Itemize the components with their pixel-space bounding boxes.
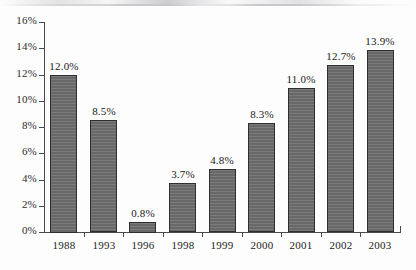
scan-artifact-streak: [0, 4, 416, 6]
bar-chart: 0%2%4%6%8%10%12%14%16% 19881993199619981…: [0, 0, 416, 270]
y-axis-tick-label: 8%: [0, 119, 37, 131]
bar-value-label: 8.5%: [84, 105, 124, 117]
y-axis-tick-label: 2%: [0, 198, 37, 210]
y-axis-tick: [39, 180, 45, 181]
scan-artifact-band: [0, 0, 416, 6]
x-axis-end-tick: [400, 226, 401, 233]
y-axis-tick: [39, 153, 45, 154]
y-axis-tick-label: 14%: [0, 40, 37, 52]
bar-value-label: 13.9%: [360, 35, 400, 47]
y-axis-tick: [39, 232, 45, 233]
y-axis-tick-label: 12%: [0, 67, 37, 79]
x-axis-tick-label: 2000: [242, 239, 282, 251]
bar: [367, 50, 394, 232]
bar: [129, 222, 156, 233]
x-axis-tick: [202, 232, 203, 237]
x-axis-tick: [123, 232, 124, 237]
y-axis-tick: [39, 206, 45, 207]
y-axis-tick-label: 16%: [0, 14, 37, 26]
bar: [248, 123, 275, 232]
y-axis-tick: [39, 127, 45, 128]
bar-value-label: 12.7%: [321, 50, 361, 62]
bar-value-label: 8.3%: [242, 108, 282, 120]
x-axis-tick: [242, 232, 243, 237]
y-axis-tick-label: 10%: [0, 93, 37, 105]
bar-value-label: 4.8%: [202, 154, 242, 166]
y-axis-tick: [39, 22, 45, 23]
y-axis-tick: [39, 75, 45, 76]
x-axis-tick-label: 2003: [360, 239, 400, 251]
y-axis-tick-label: 0%: [0, 224, 37, 236]
x-axis-tick: [281, 232, 282, 237]
x-axis-line: [44, 232, 401, 233]
x-axis-tick: [84, 232, 85, 237]
bar: [288, 88, 315, 232]
y-axis-tick-label: 6%: [0, 145, 37, 157]
y-axis-tick: [39, 101, 45, 102]
y-axis-tick-label: 4%: [0, 172, 37, 184]
x-axis-tick-label: 1998: [163, 239, 203, 251]
bar-value-label: 12.0%: [44, 60, 84, 72]
y-axis-tick: [39, 48, 45, 49]
bar: [327, 65, 354, 232]
bar-value-label: 0.8%: [123, 207, 163, 219]
x-axis-tick-label: 1996: [123, 239, 163, 251]
x-axis-tick-label: 2002: [321, 239, 361, 251]
x-axis-tick-label: 1993: [84, 239, 124, 251]
x-axis-tick: [163, 232, 164, 237]
x-axis-tick-label: 1999: [202, 239, 242, 251]
x-axis-tick-label: 2001: [281, 239, 321, 251]
x-axis-tick: [321, 232, 322, 237]
bar: [50, 75, 77, 233]
x-axis-tick-label: 1988: [44, 239, 84, 251]
x-axis-tick: [360, 232, 361, 237]
bar: [90, 120, 117, 232]
bar-value-label: 3.7%: [163, 168, 203, 180]
bar-value-label: 11.0%: [281, 73, 321, 85]
bar: [209, 169, 236, 232]
bar: [169, 183, 196, 232]
